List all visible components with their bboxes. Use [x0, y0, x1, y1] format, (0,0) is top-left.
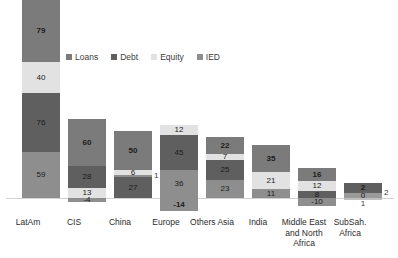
bar-segment[interactable]: 40: [22, 62, 60, 93]
bar-segment-value: 11: [267, 190, 275, 198]
bar-segment-value: -10: [311, 198, 323, 206]
bar-stack-negative: -4: [68, 198, 106, 202]
bar-stack-positive: 124536: [160, 125, 198, 198]
bar-stack-positive: 602813: [68, 119, 106, 198]
bar-group[interactable]: 602813-4: [64, 0, 110, 212]
bar-segment[interactable]: 36: [160, 170, 198, 198]
bar-group[interactable]: 506127: [110, 0, 156, 212]
bar-segment-value: 60: [83, 139, 92, 147]
bar-segment-value: 22: [221, 142, 230, 150]
bar-segment-negative[interactable]: -14: [160, 198, 198, 211]
bar-segment-value: 45: [175, 149, 184, 157]
bar-segment[interactable]: 60: [68, 119, 106, 166]
bar-segment[interactable]: 35: [252, 145, 290, 172]
bar-stack-positive: 220: [344, 183, 382, 198]
bar-segment[interactable]: 25: [206, 160, 244, 180]
bar-segment[interactable]: 50: [114, 131, 152, 170]
bar-segment-value: 40: [37, 74, 46, 82]
bar-stack-negative: -10: [298, 198, 336, 206]
bar-segment-value: 25: [221, 166, 230, 174]
bar-segment-value: -4: [83, 196, 90, 204]
bar-segment-value: 23: [221, 185, 230, 193]
bar-segment-negative[interactable]: 1: [344, 198, 382, 200]
bar-segment-value: 12: [313, 182, 322, 190]
bar-segment[interactable]: 45: [160, 135, 198, 170]
bar-segment-value: 35: [267, 155, 276, 163]
bar-segment[interactable]: 11: [252, 189, 290, 198]
bar-segment-value: 76: [37, 119, 46, 127]
bar-stack-positive: 79407659: [22, 0, 60, 198]
bar-segment-value: 2: [384, 189, 388, 197]
bar-group[interactable]: 124536-14: [156, 0, 202, 212]
bar-segment-negative[interactable]: -10: [298, 198, 336, 206]
bar-segment-value: 36: [175, 180, 184, 188]
bar-segment-value: 79: [37, 27, 46, 35]
plot-area: 79407659602813-4506127124536-14227252335…: [0, 0, 398, 212]
bar-stack-negative: -14: [160, 198, 198, 211]
bar-segment[interactable]: 23: [206, 180, 244, 198]
stacked-bar-chart: LoansDebtEquityIED 79407659602813-450612…: [0, 0, 398, 258]
bar-stack-positive: 16128: [298, 168, 336, 198]
bar-group[interactable]: 352111: [248, 0, 294, 212]
x-axis-tick-label: SubSah. Africa: [322, 217, 378, 238]
bar-segment[interactable]: 28: [68, 166, 106, 188]
bar-segment-value: 59: [37, 171, 46, 179]
bar-group[interactable]: 2272523: [202, 0, 248, 212]
bar-stack-positive: 506127: [114, 131, 152, 198]
bar-stack-negative: 1: [344, 198, 382, 200]
bar-stack-positive: 2272523: [206, 137, 244, 198]
bar-segment-value: 16: [313, 171, 322, 179]
bar-segment-value: 50: [129, 147, 138, 155]
x-axis-labels: LatAmCISChinaEuropeOthers AsiaIndiaMiddl…: [0, 213, 398, 258]
bar-segment-value: -14: [173, 201, 185, 209]
bar-segment-value: 12: [175, 126, 184, 134]
bar-segment-value: 28: [83, 173, 92, 181]
bar-segment[interactable]: 59: [22, 152, 60, 198]
bar-segment[interactable]: 79: [22, 0, 60, 62]
bar-segment[interactable]: 76: [22, 93, 60, 152]
bar-segment-value: 21: [267, 177, 276, 185]
bar-segment[interactable]: 27: [114, 177, 152, 198]
bar-group[interactable]: 79407659: [18, 0, 64, 212]
bar-segment-negative[interactable]: -4: [68, 198, 106, 202]
bar-segment[interactable]: 12: [160, 125, 198, 135]
bar-segment-value: 1: [361, 200, 365, 208]
bar-segment[interactable]: 16: [298, 168, 336, 181]
bar-group[interactable]: 2201: [340, 0, 386, 212]
bar-segment[interactable]: 21: [252, 172, 290, 189]
bar-segment-value: 27: [129, 184, 138, 192]
bar-stack-positive: 352111: [252, 145, 290, 198]
bar-group[interactable]: 16128-10: [294, 0, 340, 212]
